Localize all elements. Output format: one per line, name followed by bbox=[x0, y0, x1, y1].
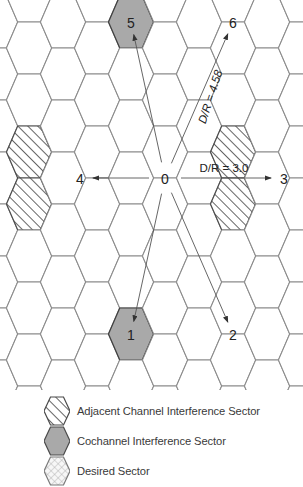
cell-label-4: 4 bbox=[76, 171, 84, 187]
cell-label-3: 3 bbox=[280, 171, 288, 187]
legend-label-adjacent: Adjacent Channel Interference Sector bbox=[77, 405, 260, 417]
diagram-root: 0564312D/R = 3.0D/R = 4.58 Adjacent Chan… bbox=[0, 0, 303, 487]
solid-gray-hexagon-icon bbox=[44, 426, 70, 456]
legend-item-desired: Desired Sector bbox=[44, 456, 150, 486]
hatched-hexagon-icon bbox=[44, 396, 70, 426]
cell-label-2: 2 bbox=[229, 327, 237, 343]
cell-label-0: 0 bbox=[161, 171, 169, 187]
cell-label-1: 1 bbox=[127, 327, 135, 343]
legend-item-adjacent: Adjacent Channel Interference Sector bbox=[44, 396, 260, 426]
cell-label-5: 5 bbox=[127, 15, 135, 31]
crosshatch-hexagon-icon bbox=[44, 456, 70, 486]
hex-grid-container: 0564312D/R = 3.0D/R = 4.58 bbox=[0, 0, 303, 390]
cell-label-6: 6 bbox=[229, 15, 237, 31]
legend-label-cochannel: Cochannel Interference Sector bbox=[77, 435, 226, 447]
legend-item-cochannel: Cochannel Interference Sector bbox=[44, 426, 226, 456]
hex-grid-svg: 0564312D/R = 3.0D/R = 4.58 bbox=[0, 0, 303, 390]
legend-label-desired: Desired Sector bbox=[77, 465, 150, 477]
legend: Adjacent Channel Interference Sector Coc… bbox=[0, 392, 303, 487]
annotation-dr-3: D/R = 3.0 bbox=[200, 162, 249, 174]
